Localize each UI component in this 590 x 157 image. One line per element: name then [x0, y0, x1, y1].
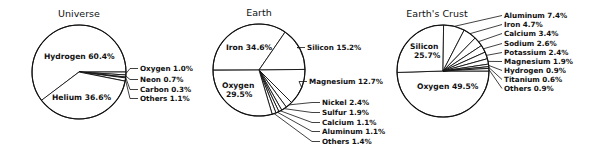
leader-line	[277, 112, 320, 131]
slice-label-oxygen: Oxygen 49.5%	[417, 82, 479, 91]
pie-chart-earth: Earth Iron 34.6%Silicon 15.2%Magnesium 1…	[213, 7, 385, 146]
slice-label-iron: Iron 4.7%	[504, 20, 543, 29]
slice-label-hydrogen: Hydrogen 60.4%	[44, 52, 115, 61]
chart-title-universe: Universe	[58, 8, 100, 19]
leader-line	[126, 76, 138, 80]
element-abundance-pie-charts: Universe Hydrogen 60.4%Oxygen 1.0%Neon 0…	[0, 0, 590, 157]
leader-line	[284, 109, 320, 113]
slice-label-others: Others 1.4%	[322, 137, 372, 146]
chart-title-earths-crust: Earth's Crust	[406, 8, 468, 19]
slice-label-oxygen: Oxygen29.5%	[222, 81, 254, 99]
slice-label-titanium: Titanium 0.6%	[504, 75, 562, 84]
slice-label-silicon: Silicon25.7%	[410, 42, 441, 60]
pie-slice-oxygen	[397, 71, 489, 117]
pie-slices	[32, 25, 126, 119]
slice-label-aluminum: Aluminum 7.4%	[504, 11, 567, 20]
slice-label-others: Others 0.9%	[504, 84, 554, 93]
slice-label-nickel: Nickel 2.4%	[322, 98, 369, 107]
slice-label-aluminum: Aluminum 1.1%	[322, 127, 385, 136]
slice-label-calcium: Calcium 1.1%	[322, 118, 376, 127]
leader-line	[126, 69, 138, 74]
slice-label-oxygen: Oxygen 1.0%	[140, 64, 193, 73]
slice-label-silicon: Silicon 15.2%	[307, 43, 361, 52]
slice-label-magnesium: Magnesium 1.9%	[504, 57, 573, 66]
slice-label-sodium: Sodium 2.6%	[504, 39, 557, 48]
slice-label-others: Others 1.1%	[140, 94, 190, 103]
charts-canvas: Universe Hydrogen 60.4%Oxygen 1.0%Neon 0…	[0, 0, 590, 157]
pie-slices	[213, 24, 305, 116]
slice-label-carbon: Carbon 0.3%	[140, 85, 191, 94]
slice-label-neon: Neon 0.7%	[140, 75, 183, 84]
leader-line	[483, 44, 502, 49]
leader-line	[478, 34, 502, 42]
chart-title-earth: Earth	[246, 7, 271, 18]
leader-line	[489, 68, 502, 80]
leader-line	[274, 114, 320, 142]
slice-label-helium: Helium 36.6%	[52, 93, 111, 102]
slice-label-iron: Iron 34.6%	[226, 43, 273, 52]
pie-chart-universe: Universe Hydrogen 60.4%Oxygen 1.0%Neon 0…	[32, 8, 193, 119]
leader-line	[489, 70, 502, 89]
leader-line	[489, 65, 502, 70]
leader-line	[289, 103, 320, 105]
leader-line	[486, 53, 502, 56]
slice-label-potassium: Potassium 2.4%	[504, 48, 569, 57]
slice-label-hydrogen: Hydrogen 0.9%	[504, 66, 566, 75]
slice-label-calcium: Calcium 3.4%	[504, 29, 558, 38]
pie-slices	[397, 25, 489, 117]
slice-label-sulfur: Sulfur 1.9%	[322, 108, 369, 117]
leader-line	[470, 25, 502, 34]
leader-line	[297, 48, 305, 49]
slice-label-magnesium: Magnesium 12.7%	[309, 77, 383, 86]
pie-chart-earths-crust: Earth's Crust Oxygen 49.5%Silicon25.7%Al…	[397, 8, 573, 117]
